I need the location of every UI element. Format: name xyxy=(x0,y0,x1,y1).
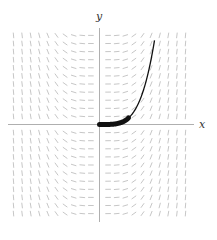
slope-segment xyxy=(30,65,31,71)
slope-segment xyxy=(71,116,76,118)
slope-segment xyxy=(13,57,14,63)
slope-segment xyxy=(55,179,58,184)
slope-segment xyxy=(150,33,152,38)
slope-segment xyxy=(63,107,68,110)
slope-segment xyxy=(185,73,186,79)
slope-segment xyxy=(168,187,169,193)
slope-segment xyxy=(159,73,160,78)
slope-segment xyxy=(55,195,58,200)
slope-segment xyxy=(132,58,137,61)
slope-segment xyxy=(177,33,178,39)
slope-segment xyxy=(141,147,144,152)
slope-segment xyxy=(132,82,137,85)
slope-segment xyxy=(159,57,160,62)
slope-segment xyxy=(80,140,86,141)
slope-segment xyxy=(63,196,68,199)
slope-segment xyxy=(123,43,128,45)
slope-segment xyxy=(185,49,186,55)
slope-segment xyxy=(13,195,14,201)
slope-segment xyxy=(159,138,160,143)
slope-segment xyxy=(80,43,86,44)
slope-segment xyxy=(159,65,160,70)
slope-segment xyxy=(47,130,49,135)
slope-segment xyxy=(80,149,86,150)
slope-segment xyxy=(185,203,186,209)
slope-segment xyxy=(159,187,160,192)
slope-segment xyxy=(47,73,49,78)
slope-segment xyxy=(80,116,86,117)
slope-segment xyxy=(141,41,144,46)
slope-segment xyxy=(22,114,23,120)
slope-segment xyxy=(150,195,152,200)
slope-segment xyxy=(55,90,58,95)
slope-segment xyxy=(30,49,31,55)
slope-segment xyxy=(114,140,120,141)
slope-segment xyxy=(13,114,14,120)
slope-segment xyxy=(159,33,160,38)
slope-segment xyxy=(185,195,186,201)
slope-segment xyxy=(13,138,14,144)
slope-segment xyxy=(80,76,86,77)
slope-segment xyxy=(63,115,68,118)
slope-segment xyxy=(123,180,128,182)
slope-segment xyxy=(150,73,152,78)
slope-segment xyxy=(13,106,14,112)
slope-segment xyxy=(132,163,137,166)
slope-segment xyxy=(47,41,49,46)
slope-segment xyxy=(141,179,144,184)
slope-segment xyxy=(71,180,76,182)
slope-segment xyxy=(13,187,14,193)
slope-segment xyxy=(22,203,23,209)
slope-segment xyxy=(185,138,186,144)
slope-segment xyxy=(22,146,23,152)
slope-segment xyxy=(177,130,178,136)
slope-segment xyxy=(63,204,68,207)
slope-segment xyxy=(71,51,76,53)
slope-segment xyxy=(22,211,23,217)
slope-segment xyxy=(13,146,14,152)
slope-segment xyxy=(22,178,23,184)
slope-segment xyxy=(30,89,31,95)
slope-segment xyxy=(168,57,169,63)
slope-segment xyxy=(168,33,169,39)
slope-segment xyxy=(30,57,31,63)
slope-segment xyxy=(30,81,31,87)
slope-segment xyxy=(22,195,23,201)
slope-segment xyxy=(22,97,23,103)
slope-segment xyxy=(13,178,14,184)
slope-segment xyxy=(114,51,120,52)
slope-segment xyxy=(177,187,178,193)
slope-segment xyxy=(13,170,14,176)
slope-segment xyxy=(185,146,186,152)
slope-segment xyxy=(159,154,160,159)
slope-segment xyxy=(47,65,49,70)
slope-segment xyxy=(159,49,160,54)
slope-segment xyxy=(114,181,120,182)
slope-segment xyxy=(141,171,144,176)
slope-segment xyxy=(185,41,186,47)
slope-segment xyxy=(141,74,144,79)
slope-segment xyxy=(132,66,137,69)
slope-segment xyxy=(47,106,49,111)
slope-segment xyxy=(63,147,68,150)
slope-segment xyxy=(114,213,120,214)
slope-segment xyxy=(123,172,128,174)
slope-segment xyxy=(39,203,40,208)
slope-segment xyxy=(80,213,86,214)
slope-segment xyxy=(185,162,186,168)
slope-segment xyxy=(141,82,144,87)
slope-segment xyxy=(114,132,120,133)
slope-segment xyxy=(150,90,152,95)
slope-segment xyxy=(177,73,178,79)
slope-segment xyxy=(168,195,169,201)
slope-segment xyxy=(123,75,128,77)
slope-segment xyxy=(47,195,49,200)
slope-segment xyxy=(123,99,128,101)
slope-segment xyxy=(13,203,14,209)
slope-segment xyxy=(55,66,58,71)
solution-curve xyxy=(100,40,155,124)
slope-segment xyxy=(168,138,169,144)
slope-segment xyxy=(39,170,40,175)
slope-segment xyxy=(22,81,23,87)
slope-segment xyxy=(55,33,58,38)
